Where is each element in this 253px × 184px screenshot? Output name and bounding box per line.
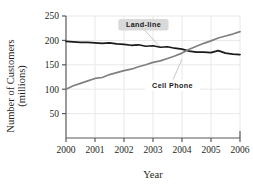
y-axis-title-line2: (millions) (16, 65, 28, 107)
y-axis-tick-labels: 50100150200250 (45, 11, 60, 119)
series-label-land-line: Land-line (126, 20, 161, 29)
chart-container: 50100150200250 2000200120022003200420052… (0, 0, 253, 184)
x-tick-label: 2003 (144, 145, 163, 155)
line-chart: 50100150200250 2000200120022003200420052… (0, 0, 253, 184)
x-tick-label: 2001 (86, 145, 105, 155)
y-tick-label: 250 (45, 11, 60, 21)
y-tick-label: 100 (45, 85, 60, 95)
axis-ticks (62, 16, 240, 142)
y-tick-label: 150 (45, 60, 60, 70)
x-tick-label: 2005 (202, 145, 221, 155)
x-tick-label: 2000 (57, 145, 76, 155)
axis-titles: Year Number of Customers (millions) (5, 39, 163, 180)
y-tick-label: 200 (45, 36, 60, 46)
x-tick-label: 2006 (231, 145, 250, 155)
leader-line (143, 29, 160, 47)
x-tick-label: 2004 (173, 145, 192, 155)
y-tick-label: 50 (50, 109, 60, 119)
x-axis-tick-labels: 2000200120022003200420052006 (57, 145, 250, 155)
y-axis-title: Number of Customers (millions) (5, 39, 28, 132)
y-axis-title-line1: Number of Customers (5, 39, 16, 132)
x-tick-label: 2002 (115, 145, 134, 155)
series-label-cell-phone: Cell Phone (152, 81, 193, 90)
series-annotations: Land-lineCell Phone (118, 19, 199, 91)
leader-line (172, 59, 182, 81)
x-axis-title: Year (143, 169, 163, 180)
gridlines (66, 16, 240, 138)
